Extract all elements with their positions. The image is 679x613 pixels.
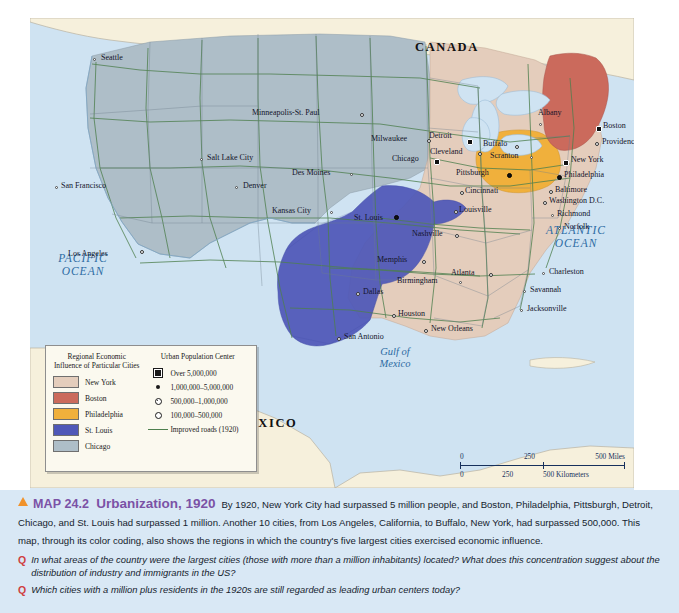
legend-population-symbols: Over 5,000,0001,000,000–5,000,000500,000… — [146, 366, 249, 422]
question-text: In what areas of the country were the la… — [31, 554, 663, 579]
caption-map-number: MAP 24.2 — [33, 497, 89, 511]
question-text: Which cities with a million plus residen… — [31, 584, 460, 597]
city-marker — [350, 173, 353, 176]
caption-title: Urbanization, 1920 — [96, 496, 215, 511]
scale-km-500: 500 Kilometers — [543, 470, 589, 479]
legend-region-label: Boston — [85, 394, 107, 403]
legend-region-row: St. Louis — [53, 422, 140, 438]
city-marker — [507, 173, 512, 178]
scale-miles-labels: 0 250 500 Miles — [460, 452, 625, 461]
caption-question: QWhich cities with a million plus reside… — [18, 584, 663, 597]
map-legend: Regional Economic Influence of Particula… — [45, 345, 257, 472]
city-marker — [422, 260, 426, 264]
city-marker — [542, 272, 545, 275]
question-marker: Q — [18, 584, 26, 597]
figure-caption: MAP 24.2Urbanization, 1920By 1920, New Y… — [18, 494, 663, 597]
triangle-marker-icon — [18, 497, 28, 506]
city-marker — [596, 126, 602, 132]
caption-question: QIn what areas of the country were the l… — [18, 554, 663, 579]
legend-color-swatch — [53, 376, 79, 388]
legend-color-swatch — [53, 440, 79, 452]
city-marker — [140, 250, 144, 254]
city-marker — [330, 211, 333, 214]
city-marker — [394, 215, 399, 220]
city-marker — [459, 281, 462, 284]
textbook-page: CANADA MEXICO PACIFICOCEAN ATLANTICOCEAN… — [0, 0, 679, 613]
legend-color-swatch — [53, 408, 79, 420]
legend-population-row: Over 5,000,000 — [146, 366, 249, 380]
city-marker — [551, 214, 554, 217]
city-marker — [55, 186, 58, 189]
scale-miles-250: 250 — [524, 452, 535, 461]
city-marker — [515, 145, 519, 149]
dot-open-icon — [146, 412, 170, 419]
scale-miles-500: 500 Miles — [595, 452, 625, 461]
page-margin-left — [0, 0, 30, 490]
city-marker — [467, 139, 473, 145]
legend-region-row: Chicago — [53, 438, 140, 454]
city-marker — [356, 292, 360, 296]
page-margin-top — [0, 0, 679, 18]
city-marker — [563, 160, 569, 166]
city-marker — [93, 58, 96, 61]
city-marker — [478, 152, 482, 156]
city-marker — [424, 329, 428, 333]
legend-region-label: Chicago — [85, 442, 110, 451]
city-marker — [200, 158, 203, 161]
legend-population-label: Over 5,000,000 — [170, 369, 216, 378]
scale-ruler — [460, 462, 625, 469]
legend-population-row: 100,000–500,000 — [146, 408, 249, 422]
city-marker — [360, 113, 364, 117]
legend-region-label: Philadelphia — [85, 410, 123, 419]
city-marker — [454, 210, 458, 214]
scale-km-250: 250 — [502, 470, 513, 479]
city-marker — [235, 186, 238, 189]
city-marker — [539, 123, 542, 126]
city-marker — [523, 290, 526, 293]
dot-filled-icon — [146, 385, 170, 389]
scale-km-labels: 0 250 500 Kilometers — [460, 470, 625, 479]
caption-questions: QIn what areas of the country were the l… — [18, 554, 663, 597]
question-marker: Q — [18, 554, 26, 579]
scale-miles-0: 0 — [460, 452, 464, 461]
city-marker — [530, 156, 533, 159]
legend-region-label: New York — [85, 378, 116, 387]
legend-region-swatches: New YorkBostonPhiladelphiaSt. LouisChica… — [53, 374, 140, 454]
legend-region-row: Philadelphia — [53, 406, 140, 422]
legend-population-label: 500,000–1,000,000 — [170, 397, 227, 406]
city-marker — [455, 234, 459, 238]
legend-population-label: 100,000–500,000 — [170, 411, 222, 420]
legend-region-label: St. Louis — [85, 426, 112, 435]
legend-color-swatch — [53, 424, 79, 436]
legend-region-row: Boston — [53, 390, 140, 406]
city-marker — [460, 191, 464, 195]
legend-color-swatch — [53, 392, 79, 404]
city-marker — [543, 201, 547, 205]
improved-roads-icon — [146, 429, 170, 430]
legend-population-row: 1,000,000–5,000,000 — [146, 380, 249, 394]
dot-half-icon — [146, 398, 170, 405]
city-marker — [337, 337, 341, 341]
city-marker — [427, 139, 431, 143]
city-marker — [392, 314, 396, 318]
city-marker — [595, 142, 599, 146]
map-scale-bar: 0 250 500 Miles 0 250 500 Kilometers — [460, 452, 625, 479]
city-marker — [520, 309, 523, 312]
legend-region-row: New York — [53, 374, 140, 390]
caption-heading: MAP 24.2Urbanization, 1920By 1920, New Y… — [18, 494, 663, 548]
city-marker — [434, 159, 440, 165]
page-margin-right — [634, 0, 679, 490]
city-marker — [489, 273, 493, 277]
city-marker — [549, 190, 553, 194]
map-figure: CANADA MEXICO PACIFICOCEAN ATLANTICOCEAN… — [30, 18, 634, 488]
legend-regions-title: Regional Economic Influence of Particula… — [53, 352, 140, 370]
square-filled-icon — [146, 369, 170, 377]
city-marker — [557, 175, 562, 180]
legend-population-row: 500,000–1,000,000 — [146, 394, 249, 408]
legend-roads-label: Improved roads (1920) — [170, 425, 238, 434]
city-marker — [558, 227, 561, 230]
legend-population-label: 1,000,000–5,000,000 — [170, 383, 233, 392]
legend-roads-row: Improved roads (1920) — [146, 422, 249, 436]
legend-population-title: Urban Population Center — [146, 352, 249, 361]
